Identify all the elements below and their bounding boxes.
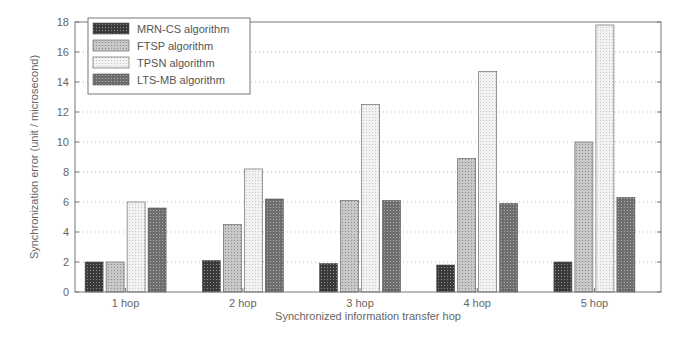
bar-ftsp-algorithm bbox=[106, 262, 124, 292]
legend-label: MRN-CS algorithm bbox=[137, 23, 229, 35]
legend-swatch bbox=[93, 57, 129, 68]
bar-lts-mb-algorithm bbox=[383, 201, 401, 293]
legend: MRN-CS algorithmFTSP algorithmTPSN algor… bbox=[88, 18, 250, 94]
bar-lts-mb-algorithm bbox=[500, 204, 518, 293]
bar-ftsp-algorithm bbox=[223, 225, 241, 293]
legend-label: LTS-MB algorithm bbox=[137, 74, 225, 86]
x-tick-label: 1 hop bbox=[112, 297, 140, 309]
legend-swatch bbox=[93, 74, 129, 85]
y-tick-label: 18 bbox=[57, 16, 69, 28]
bar-tpsn-algorithm bbox=[127, 202, 145, 292]
bar-tpsn-algorithm bbox=[479, 72, 497, 293]
x-axis: 1 hop2 hop3 hop4 hop5 hop bbox=[112, 288, 608, 309]
x-tick-label: 4 hop bbox=[463, 297, 491, 309]
bar-tpsn-algorithm bbox=[596, 25, 614, 292]
y-axis-label: Synchronization error (unit / microsecon… bbox=[28, 55, 40, 259]
bar-mrn-cs-algorithm bbox=[320, 264, 338, 293]
bar-lts-mb-algorithm bbox=[265, 199, 283, 292]
y-tick-label: 10 bbox=[57, 136, 69, 148]
bar-mrn-cs-algorithm bbox=[202, 261, 220, 293]
bar-ftsp-algorithm bbox=[575, 142, 593, 292]
y-tick-label: 2 bbox=[63, 256, 69, 268]
y-tick-label: 12 bbox=[57, 106, 69, 118]
legend-label: TPSN algorithm bbox=[137, 57, 215, 69]
bar-lts-mb-algorithm bbox=[617, 198, 635, 293]
bar-mrn-cs-algorithm bbox=[85, 262, 103, 292]
y-tick-label: 4 bbox=[63, 226, 69, 238]
bar-chart: 024681012141618 1 hop2 hop3 hop4 hop5 ho… bbox=[0, 0, 693, 342]
legend-swatch bbox=[93, 40, 129, 51]
x-axis-label: Synchronized information transfer hop bbox=[275, 310, 461, 322]
x-tick-label: 3 hop bbox=[346, 297, 374, 309]
bar-ftsp-algorithm bbox=[458, 159, 476, 293]
bar-mrn-cs-algorithm bbox=[437, 265, 455, 292]
y-tick-label: 14 bbox=[57, 76, 69, 88]
y-tick-label: 16 bbox=[57, 46, 69, 58]
bar-tpsn-algorithm bbox=[244, 169, 262, 292]
y-tick-label: 6 bbox=[63, 196, 69, 208]
x-tick-label: 5 hop bbox=[581, 297, 609, 309]
bar-lts-mb-algorithm bbox=[148, 208, 166, 292]
legend-label: FTSP algorithm bbox=[137, 40, 213, 52]
bar-tpsn-algorithm bbox=[362, 105, 380, 293]
y-tick-label: 0 bbox=[63, 286, 69, 298]
legend-swatch bbox=[93, 23, 129, 34]
bar-mrn-cs-algorithm bbox=[554, 262, 572, 292]
x-tick-label: 2 hop bbox=[229, 297, 257, 309]
bar-ftsp-algorithm bbox=[341, 201, 359, 293]
y-tick-label: 8 bbox=[63, 166, 69, 178]
